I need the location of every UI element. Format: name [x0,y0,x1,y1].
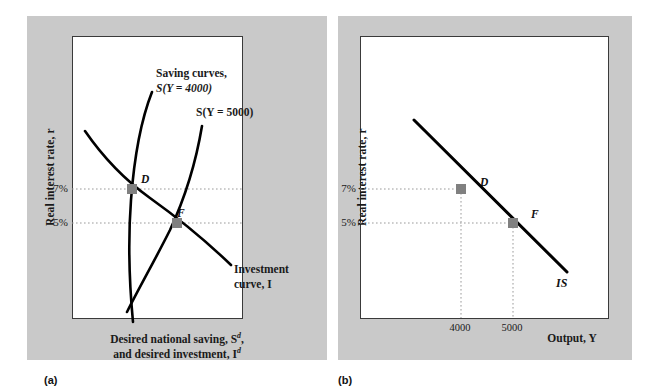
saving-label-line2: S(Y = 4000) [156,82,212,94]
panel-a-saving-curve-5000-label: S(Y = 5000) [196,105,253,120]
panel-b-caption: (b) [338,374,352,386]
panel-b-x-tick-5000: 5000 [502,322,523,333]
investment-label-line2: curve, I [234,278,272,290]
saving-label-line1: Saving curves, [156,67,227,79]
panel-b-point-label-f: F [531,208,539,220]
panel-b-y-tick-7: 7% [336,182,356,194]
panel-a-y-tick-7: 7% [48,182,68,194]
panel-b-y-tick-5: 5% [336,216,356,228]
panel-a-caption: (a) [44,374,57,386]
panel-a-investment-curve-label: Investment curve, I [234,262,289,293]
panel-a-x-axis-title: Desired national saving, Sd, and desired… [110,332,244,362]
x-axis-title-line2: and desired investment, I [113,348,237,360]
panel-a-saving-curves-label: Saving curves, S(Y = 4000) [156,66,227,97]
panel-a-point-label-d: D [141,173,149,185]
panel-b-y-axis-title: Real interest rate, r [356,128,368,226]
panel-b-x-tick-4000: 4000 [450,322,471,333]
panel-a-point-label-f: F [177,207,185,219]
panel-b-x-axis-title: Output, Y [547,331,596,346]
panel-b-is-curve-label: IS [556,276,567,291]
x-axis-title-line2-sup: d [237,346,241,355]
x-axis-title-line1: Desired national saving, S [110,333,237,345]
panel-a-y-tick-5: 5% [48,216,68,228]
panel-a-y-axis-title: Real interest rate, r [44,128,56,226]
figure-container: Real interest rate, r 7% 5% Saving curve… [0,0,650,391]
x-axis-title-line1-tail: , [241,333,244,345]
investment-label-line1: Investment [234,263,289,275]
panel-b-point-label-d: D [480,176,488,188]
